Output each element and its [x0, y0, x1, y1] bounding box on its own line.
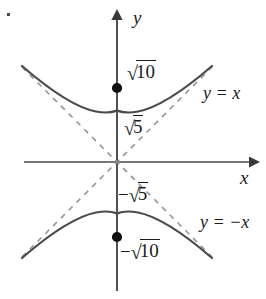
- radical-sqrt10: √10: [127, 62, 156, 82]
- y-axis-arrowhead: [111, 9, 122, 20]
- x-axis-label: x: [240, 168, 248, 187]
- radicand: 10: [136, 60, 156, 82]
- radical-neg-sqrt10: −√10: [120, 241, 160, 261]
- asymptote-positive-label: y = x: [203, 84, 240, 102]
- focus-lower-value-label: −√10: [120, 241, 160, 261]
- radical-sqrt5: √5: [124, 117, 143, 137]
- radicand: 10: [140, 239, 160, 261]
- vertex-upper-value-label: √5: [124, 117, 143, 137]
- x-axis-arrowhead: [249, 156, 260, 167]
- focus-upper-dot: [112, 83, 122, 93]
- radicand: 5: [133, 115, 144, 137]
- radicand: 5: [138, 182, 149, 204]
- radical-neg-sqrt5: −√5: [118, 184, 148, 204]
- focus-upper-value-label: √10: [127, 62, 156, 82]
- hyperbola-figure: y x y = x y = −x √10 √5 −√5 −√10: [0, 0, 266, 299]
- asymptote-negative-label: y = −x: [200, 213, 249, 231]
- y-axis-label: y: [133, 8, 141, 27]
- vertex-lower-value-label: −√5: [118, 184, 148, 204]
- radical-sign: −: [118, 184, 129, 205]
- radical-sign: −: [120, 241, 131, 262]
